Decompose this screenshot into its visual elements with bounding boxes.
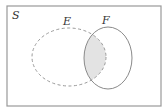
venn-diagram: S E F [0,0,166,112]
universe-label: S [12,9,20,22]
set-e-label: E [62,15,71,28]
set-f-label: F [101,14,110,27]
